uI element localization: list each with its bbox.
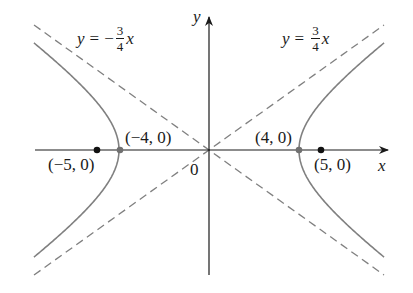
origin-label: 0: [190, 161, 199, 178]
left-vertex-point: [117, 147, 124, 154]
eq-minus: −: [104, 30, 114, 47]
eq-equals: =: [90, 30, 100, 47]
eq-equals: =: [295, 30, 305, 47]
x-axis-label: x: [378, 157, 386, 174]
y-axis-label: y: [193, 8, 201, 25]
right-vertex-label: (4, 0): [255, 129, 292, 146]
plot-canvas: [0, 0, 413, 293]
eq-y: y: [282, 30, 290, 47]
eq-fraction: 3 4: [116, 24, 125, 53]
hyperbola-figure: y x 0 y = − 3 4 x y = 3 4 x (−5, 0) (−4,…: [0, 0, 413, 293]
asymptote-negative-label: y = − 3 4 x: [77, 24, 134, 53]
right-vertex-point: [296, 147, 303, 154]
eq-x: x: [322, 30, 330, 47]
right-focus-point: [318, 147, 325, 154]
eq-y: y: [77, 30, 85, 47]
left-focus-point: [94, 147, 101, 154]
left-focus-label: (−5, 0): [48, 156, 94, 173]
left-vertex-label: (−4, 0): [125, 129, 171, 146]
asymptote-positive-label: y = 3 4 x: [282, 24, 329, 53]
eq-x: x: [126, 30, 134, 47]
right-focus-label: (5, 0): [314, 156, 351, 173]
eq-fraction: 3 4: [311, 24, 320, 53]
